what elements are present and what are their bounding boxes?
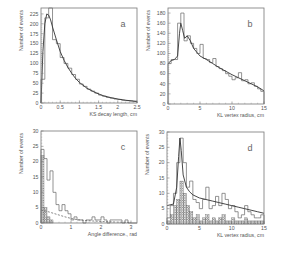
hatched-bar bbox=[183, 193, 186, 224]
figure-four-panel-histograms: 00.511.522.50255075100125150175200225KS … bbox=[0, 0, 281, 255]
hatched-bar bbox=[193, 218, 196, 224]
hatched-bar bbox=[245, 218, 248, 224]
x-tick-label: 2 bbox=[100, 224, 103, 230]
hatched-bar bbox=[186, 206, 189, 224]
hatched-bar bbox=[251, 221, 254, 224]
y-tick-label: 50 bbox=[33, 80, 39, 86]
x-tick-label: 2 bbox=[116, 104, 119, 110]
x-tick-label: 3 bbox=[130, 224, 133, 230]
hatched-bar bbox=[228, 221, 231, 224]
hatched-bar bbox=[50, 220, 53, 223]
hatched-bar bbox=[258, 221, 261, 224]
hatched-bar bbox=[248, 221, 251, 224]
y-axis-title: Number of events bbox=[144, 134, 150, 175]
x-tick-label: 15 bbox=[261, 225, 267, 231]
x-tick-label: 0.5 bbox=[57, 104, 64, 110]
x-tick-label: 10 bbox=[229, 225, 235, 231]
x-tick-label: 0 bbox=[166, 225, 169, 231]
y-tick-label: 120 bbox=[157, 40, 166, 46]
panel-letter: a bbox=[120, 19, 125, 29]
hatched-bar bbox=[190, 212, 193, 224]
x-axis-title: KS decay length, cm bbox=[89, 111, 137, 117]
hatched-bar bbox=[173, 206, 176, 224]
y-axis: 020406080100120140160180 bbox=[157, 10, 171, 107]
hatched-bar bbox=[206, 215, 209, 224]
x-tick-label: 10 bbox=[229, 105, 235, 111]
hatched-bar bbox=[235, 221, 238, 224]
y-axis-title: Number of events bbox=[145, 10, 151, 51]
hatched-bar bbox=[238, 221, 241, 224]
x-axis-title: Angle difference., rad bbox=[88, 231, 137, 237]
y-axis-title: Number of events bbox=[18, 133, 24, 174]
y-tick-label: 40 bbox=[160, 81, 166, 87]
x-tick-label: 2.5 bbox=[133, 104, 140, 110]
hatched-bar bbox=[177, 199, 180, 224]
y-axis-title: Number of events bbox=[18, 10, 24, 51]
hatched-bar bbox=[203, 218, 206, 224]
dashed-curve bbox=[41, 210, 131, 222]
x-tick-label: 0 bbox=[167, 105, 170, 111]
x-tick-label: 1 bbox=[70, 224, 73, 230]
y-tick-label: 80 bbox=[160, 60, 166, 66]
panel-d: 051015051015202530KL vertex radius, cmNu… bbox=[144, 129, 267, 238]
x-axis: 051015 bbox=[167, 102, 267, 112]
y-tick-label: 25 bbox=[33, 143, 39, 149]
x-tick-label: 1 bbox=[78, 104, 81, 110]
x-tick-label: 1.5 bbox=[95, 104, 102, 110]
y-tick-label: 75 bbox=[33, 70, 39, 76]
y-tick-label: 0 bbox=[163, 101, 166, 107]
y-tick-label: 15 bbox=[33, 174, 39, 180]
y-tick-label: 100 bbox=[30, 60, 39, 66]
x-tick-label: 0 bbox=[40, 224, 43, 230]
y-tick-label: 10 bbox=[33, 189, 39, 195]
y-tick-label: 200 bbox=[30, 21, 39, 27]
panel-c: 0123051015202530Angle difference., radNu… bbox=[18, 128, 137, 237]
y-tick-label: 150 bbox=[30, 40, 39, 46]
y-tick-label: 100 bbox=[157, 50, 166, 56]
y-tick-label: 10 bbox=[159, 190, 165, 196]
y-tick-label: 175 bbox=[30, 31, 39, 37]
hatched-bar bbox=[261, 221, 264, 224]
x-tick-label: 5 bbox=[198, 225, 201, 231]
y-axis: 051015202530 bbox=[159, 129, 170, 227]
hatched-bar bbox=[254, 221, 257, 224]
hatched-bar bbox=[196, 215, 199, 224]
y-tick-label: 125 bbox=[30, 50, 39, 56]
y-tick-label: 20 bbox=[33, 158, 39, 164]
x-axis: 00.511.522.5 bbox=[40, 101, 141, 111]
y-tick-label: 60 bbox=[160, 70, 166, 76]
x-tick-label: 0 bbox=[40, 104, 43, 110]
hatched-bar bbox=[47, 217, 50, 223]
fit-curve bbox=[168, 23, 264, 91]
histogram-outline bbox=[41, 149, 137, 223]
hatched-bar bbox=[222, 215, 225, 224]
x-axis-title: KL vertex radius, cm bbox=[217, 232, 264, 238]
y-tick-label: 20 bbox=[159, 159, 165, 165]
panel-b: 051015020406080100120140160180KL vertex … bbox=[145, 8, 267, 118]
y-tick-label: 5 bbox=[36, 204, 39, 210]
y-tick-label: 0 bbox=[36, 220, 39, 226]
y-tick-label: 140 bbox=[157, 30, 166, 36]
hatched-bar bbox=[167, 221, 170, 224]
hatched-bar bbox=[199, 221, 202, 224]
panel-letter: b bbox=[247, 19, 252, 29]
x-tick-label: 15 bbox=[261, 105, 267, 111]
hatched-bar bbox=[212, 218, 215, 224]
y-tick-label: 5 bbox=[162, 205, 165, 211]
hatched-bar bbox=[232, 218, 235, 224]
y-tick-label: 25 bbox=[159, 144, 165, 150]
hatched-bar bbox=[44, 208, 47, 223]
y-tick-label: 225 bbox=[30, 11, 39, 17]
x-tick-label: 5 bbox=[199, 105, 202, 111]
panel-letter: c bbox=[121, 142, 126, 152]
hatched-bar bbox=[180, 181, 183, 224]
y-tick-label: 180 bbox=[157, 10, 166, 16]
hatched-bar bbox=[241, 221, 244, 224]
hatched-bar bbox=[225, 221, 228, 224]
y-tick-label: 20 bbox=[160, 91, 166, 97]
hatched-bar bbox=[170, 215, 173, 224]
panel-letter: d bbox=[247, 143, 252, 153]
hatched-bar bbox=[209, 221, 212, 224]
panel-a: 00.511.522.50255075100125150175200225KS … bbox=[18, 8, 141, 117]
y-tick-label: 0 bbox=[162, 221, 165, 227]
